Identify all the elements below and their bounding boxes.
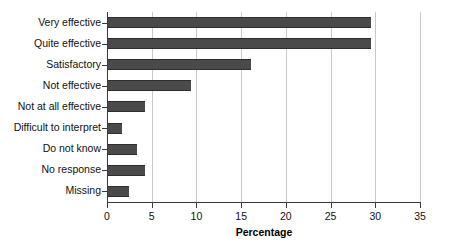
- bar-row: [107, 118, 420, 139]
- bar: [107, 38, 371, 49]
- x-tick-label-25: 25: [311, 210, 351, 222]
- bar: [107, 80, 191, 91]
- bar: [107, 59, 251, 70]
- plot-area: [107, 12, 420, 202]
- bar-row: [107, 33, 420, 54]
- y-axis-label: No response: [0, 164, 107, 175]
- x-tick-0: [107, 203, 108, 208]
- x-tick-label-20: 20: [266, 210, 306, 222]
- bar-row: [107, 139, 420, 160]
- x-tick-label-15: 15: [221, 210, 261, 222]
- y-axis-label: Very effective: [0, 17, 107, 28]
- x-axis-line: [107, 202, 421, 203]
- bar: [107, 17, 371, 28]
- y-axis-label: Do not know: [0, 143, 107, 154]
- bar-chart: Very effectiveQuite effectiveSatisfactor…: [0, 0, 450, 245]
- y-axis-label: Quite effective: [0, 38, 107, 49]
- bar-row: [107, 75, 420, 96]
- bar-row: [107, 12, 420, 33]
- y-axis-label: Satisfactory: [0, 59, 107, 70]
- x-tick-label-10: 10: [176, 210, 216, 222]
- bar-series: [107, 12, 420, 202]
- bar: [107, 144, 137, 155]
- bar: [107, 186, 129, 197]
- x-tick-25: [331, 203, 332, 208]
- y-axis-label: Not at all effective: [0, 101, 107, 112]
- y-axis-label: Not effective: [0, 80, 107, 91]
- bar: [107, 123, 122, 134]
- gridline-35: [420, 12, 421, 202]
- x-tick-20: [286, 203, 287, 208]
- x-tick-10: [196, 203, 197, 208]
- bar-row: [107, 54, 420, 75]
- bar-row: [107, 181, 420, 202]
- x-tick-5: [152, 203, 153, 208]
- bar: [107, 101, 145, 112]
- x-tick-label-30: 30: [355, 210, 395, 222]
- x-tick-label-5: 5: [132, 210, 172, 222]
- x-tick-30: [375, 203, 376, 208]
- y-axis-line: [107, 12, 108, 202]
- bar: [107, 165, 145, 176]
- x-axis-title: Percentage: [107, 226, 421, 238]
- x-tick-35: [420, 203, 421, 208]
- y-axis-label: Difficult to interpret: [0, 122, 107, 133]
- y-axis-label: Missing: [0, 185, 107, 196]
- x-tick-15: [241, 203, 242, 208]
- bar-row: [107, 160, 420, 181]
- x-tick-label-0: 0: [87, 210, 127, 222]
- x-tick-label-35: 35: [400, 210, 440, 222]
- bar-row: [107, 96, 420, 117]
